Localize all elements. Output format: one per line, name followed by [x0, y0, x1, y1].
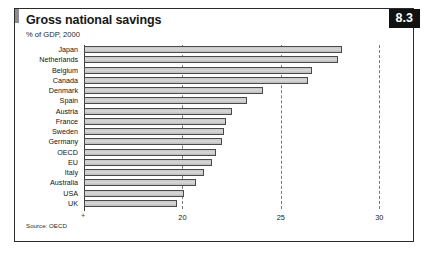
category-axis-labels: JapanNetherlandsBelgiumCanadaDenmarkSpai…	[18, 45, 81, 209]
bar	[84, 138, 222, 145]
bar	[84, 118, 226, 125]
bar-row	[84, 168, 395, 178]
bar-row	[84, 55, 395, 65]
bar	[84, 46, 342, 53]
x-tick-label: 20	[178, 213, 186, 222]
source-note: Source: OECD	[26, 222, 67, 229]
bar	[84, 179, 196, 186]
category-label: OECD	[18, 148, 81, 158]
bar	[84, 190, 184, 197]
bar-row	[84, 117, 395, 127]
page-title: Gross national savings	[26, 13, 356, 27]
bar-series	[84, 45, 395, 209]
bar-row	[84, 86, 395, 96]
bar	[84, 128, 224, 135]
accent-bar	[15, 9, 19, 23]
x-tick-label: 25	[277, 213, 285, 222]
bar-row	[84, 178, 395, 188]
bar	[84, 159, 212, 166]
category-label: Netherlands	[18, 55, 81, 65]
plot-area	[84, 45, 395, 209]
bar	[84, 169, 204, 176]
category-label: USA	[18, 189, 81, 199]
bar	[84, 67, 312, 74]
bar-row	[84, 76, 395, 86]
category-label: Spain	[18, 96, 81, 106]
bar	[84, 77, 308, 84]
bar	[84, 56, 338, 63]
bar	[84, 108, 232, 115]
category-label: Japan	[18, 45, 81, 55]
bar-row	[84, 45, 395, 55]
figure-header: Gross national savings % of GDP, 2000	[26, 13, 356, 39]
category-label: Canada	[18, 76, 81, 86]
bar-row	[84, 137, 395, 147]
bar	[84, 87, 263, 94]
category-label: Belgium	[18, 66, 81, 76]
bar	[84, 200, 177, 207]
figure-root: Gross national savings % of GDP, 2000 8.…	[0, 0, 429, 255]
figure-subtitle: % of GDP, 2000	[26, 30, 356, 39]
bar-row	[84, 158, 395, 168]
figure-number-badge: 8.3	[389, 9, 420, 28]
category-label: Denmark	[18, 86, 81, 96]
bar	[84, 149, 216, 156]
bar-row	[84, 148, 395, 158]
bar	[84, 97, 247, 104]
bar-row	[84, 66, 395, 76]
x-tick-label: 30	[375, 213, 383, 222]
category-label: UK	[18, 199, 81, 209]
category-label: Austria	[18, 107, 81, 117]
category-label: Sweden	[18, 127, 81, 137]
bar-row	[84, 127, 395, 137]
category-label: France	[18, 117, 81, 127]
category-label: EU	[18, 158, 81, 168]
bar-row	[84, 96, 395, 106]
category-label: Australia	[18, 178, 81, 188]
bar-row	[84, 199, 395, 209]
x-axis-tick-labels: 202530	[84, 213, 395, 225]
bar-row	[84, 107, 395, 117]
category-label: Germany	[18, 137, 81, 147]
category-label: Italy	[18, 168, 81, 178]
bar-row	[84, 189, 395, 199]
